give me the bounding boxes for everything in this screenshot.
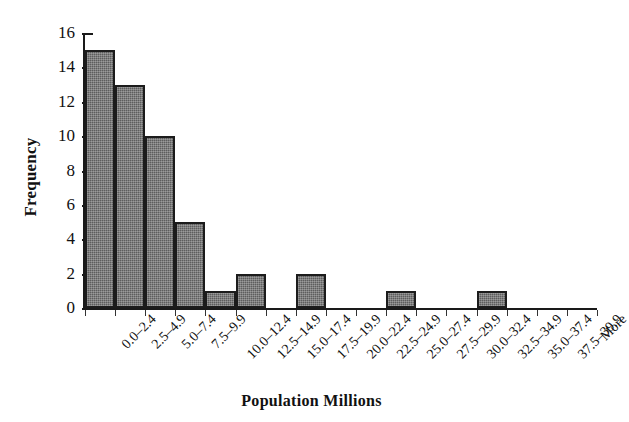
y-tick-label: 2 [67, 265, 76, 282]
histogram-bar [236, 274, 266, 308]
y-tick-label: 12 [58, 93, 75, 110]
x-tick-mark [597, 310, 598, 316]
y-tick-mark: 0 [82, 308, 93, 310]
y-tick-label: 10 [58, 127, 75, 144]
y-tick-label: 8 [67, 162, 76, 179]
plot-area: 0246810121416 [83, 33, 597, 310]
x-axis-line [83, 308, 597, 310]
histogram-bar [477, 291, 507, 308]
bars-layer [85, 33, 597, 308]
histogram-bar [386, 291, 416, 308]
histogram-bar [175, 222, 205, 308]
x-tick-label: More [598, 312, 629, 343]
y-tick-label: 0 [67, 299, 76, 316]
x-axis-label: More [598, 312, 629, 343]
x-axis-title: Population Millions [0, 392, 623, 410]
y-tick-label: 6 [67, 196, 76, 213]
x-axis-category-labels: 0.0–2.42.5–4.95.0–7.47.5–9.910.0–12.412.… [83, 312, 597, 390]
y-tick-label: 4 [67, 230, 76, 247]
y-tick-label: 16 [58, 24, 75, 41]
histogram-bar [115, 85, 145, 308]
histogram-bar [145, 136, 175, 308]
histogram-bar [205, 291, 235, 308]
y-tick-label: 14 [58, 59, 75, 76]
histogram-bar [296, 274, 326, 308]
histogram-bar [85, 50, 115, 308]
y-axis-title: Frequency [21, 97, 41, 257]
